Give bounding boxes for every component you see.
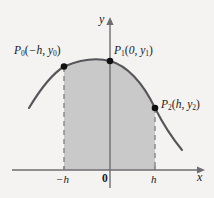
point-marker-p1 bbox=[107, 58, 114, 65]
x-axis-label: x bbox=[197, 171, 202, 183]
point-marker-p0 bbox=[61, 63, 68, 70]
y-axis-arrowhead bbox=[106, 17, 113, 25]
point-label-p0-letter: P bbox=[14, 44, 21, 56]
point-label-p0: P0(−h, y0) bbox=[14, 45, 61, 57]
point-label-p1: P1(0, y1) bbox=[114, 45, 153, 57]
parabola-area-figure: P0(−h, y0) P1(0, y1) P2(h, y2) y x −h 0 … bbox=[0, 0, 214, 198]
point-label-p0-close-paren: ) bbox=[57, 44, 61, 56]
point-label-p2-close-paren: ) bbox=[196, 98, 200, 110]
point-label-p1-letter: P bbox=[114, 44, 121, 56]
point-label-p0-arg-x: −h bbox=[29, 44, 43, 56]
point-label-p2: P2(h, y2) bbox=[161, 99, 200, 111]
tick-label-zero: 0 bbox=[102, 173, 108, 185]
point-label-p1-close-paren: ) bbox=[149, 44, 153, 56]
y-axis-label: y bbox=[99, 13, 104, 25]
point-marker-p2 bbox=[152, 105, 159, 112]
tick-label-pos-h: h bbox=[151, 174, 157, 185]
tick-label-neg-h: −h bbox=[56, 174, 69, 185]
point-label-p2-letter: P bbox=[161, 98, 168, 110]
